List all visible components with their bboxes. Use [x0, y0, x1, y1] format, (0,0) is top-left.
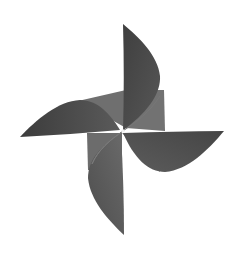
pinwheel-pin [121, 129, 125, 133]
pinwheel-graphic [0, 0, 243, 257]
pinwheel-image [0, 0, 243, 257]
pinwheel-blade-right [123, 131, 224, 172]
